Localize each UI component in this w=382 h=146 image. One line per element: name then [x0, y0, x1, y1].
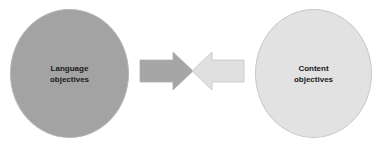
content-objectives-circle: Content objectives — [255, 9, 372, 138]
content-objectives-label: Content objectives — [294, 63, 333, 85]
right-arrow-icon — [140, 52, 193, 90]
left-arrow-icon — [192, 52, 244, 90]
